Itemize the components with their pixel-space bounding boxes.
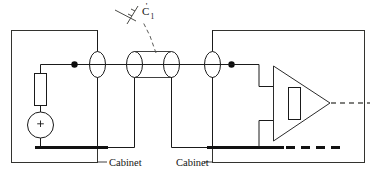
cabinet-left-label: Cabinet (109, 158, 142, 169)
capacitance-leader-line (143, 22, 156, 53)
differential-amplifier (274, 66, 331, 141)
left-signal-wire (41, 65, 98, 74)
junction-dot-left (71, 61, 77, 67)
series-resistor (35, 74, 47, 106)
capacitance-label: C'1 (142, 3, 155, 19)
shield-return-2 (108, 77, 135, 148)
schematic-canvas (0, 0, 376, 178)
capacitance-hatch-icon (115, 6, 138, 24)
feedback-resistor (289, 88, 301, 120)
shield-return-3 (172, 77, 209, 148)
capacitance-subscript: 1 (150, 12, 154, 21)
cabinet-right-label: Cabinet (176, 158, 209, 169)
schematic-diagram: Cabinet Cabinet C'1 (0, 0, 376, 178)
cabinet-left-enclosure (12, 31, 98, 163)
